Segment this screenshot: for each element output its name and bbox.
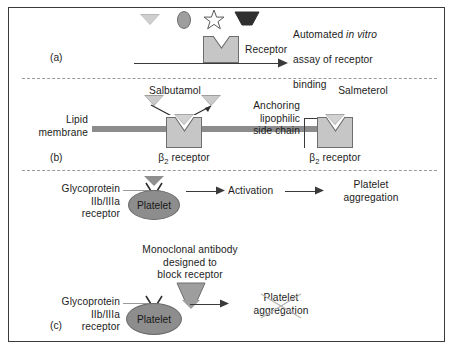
receptor-label-a: Receptor — [245, 44, 287, 57]
gp-receptor-label-bottom: Glycoprotein IIb/IIIa receptor — [38, 296, 120, 334]
salbutamol-bound-triangle-inner — [175, 115, 193, 124]
assay-text-line1: Automated — [293, 29, 346, 40]
side-chain-bracket-stem — [304, 118, 305, 148]
aggregation-arrow-shaft-bottom — [190, 304, 223, 305]
aggregation-label-top: Platelet aggregation — [328, 179, 414, 204]
star-ligand-icon — [203, 9, 225, 31]
activation-label: Activation — [228, 185, 273, 198]
blocked-cross-icon — [258, 292, 304, 320]
platelet-top: Platelet — [128, 190, 180, 220]
activation-arrow-head — [216, 186, 225, 195]
gp-ligand-triangle-top — [144, 176, 164, 186]
beta-rest-left: receptor — [169, 152, 210, 163]
assay-arrow-shaft — [134, 63, 282, 64]
divider-b-c — [22, 170, 437, 171]
assay-text-italic: in vitro — [346, 29, 377, 40]
panel-label-b: (b) — [50, 152, 62, 163]
figure-stage: (a) Receptor Automated in vitro assay of… — [0, 0, 453, 356]
trapezoid-ligand-icon — [235, 12, 259, 26]
salmeterol-bound-triangle-inner — [326, 115, 344, 124]
antibody-label: Monoclonal antibody designed to block re… — [120, 244, 260, 282]
receptor-notch-a — [203, 35, 240, 51]
side-chain-label: Anchoring lipophilic side chain — [232, 100, 300, 138]
aggregation-arrow-head-bottom — [220, 299, 229, 308]
ellipse-ligand-icon — [177, 11, 191, 29]
figure-root: (a) Receptor Automated in vitro assay of… — [0, 0, 453, 356]
assay-text-block: Automated in vitro assay of receptor bin… — [293, 16, 443, 92]
triangle-ligand-inner — [141, 15, 159, 24]
aggregation-arrow-head-top — [315, 186, 324, 195]
lipid-membrane-label: Lipid membrane — [38, 114, 88, 139]
drug-label-salmeterol: Salmeterol — [318, 85, 408, 98]
receptor-label-b-right: β2 receptor — [295, 152, 375, 169]
receptor-label-b-left: β2 receptor — [144, 152, 224, 169]
assay-text-line2: assay of receptor — [293, 54, 373, 65]
aggregation-arrow-shaft-top — [285, 191, 318, 192]
gp-receptor-label-top: Glycoprotein IIb/IIIa receptor — [38, 183, 120, 221]
lipid-membrane-bar — [92, 126, 344, 132]
beta-rest-right: receptor — [320, 152, 361, 163]
platelet-bottom: Platelet — [126, 303, 182, 335]
assay-arrow-head — [278, 58, 288, 68]
panel-label-a: (a) — [50, 52, 62, 63]
activation-arrow-shaft — [186, 191, 219, 192]
